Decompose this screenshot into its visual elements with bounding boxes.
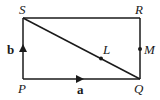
label-vector-b: b [7, 42, 14, 57]
label-s: S [19, 2, 26, 17]
vector-diagram: S R P Q L M b a [0, 0, 160, 100]
label-p: P [17, 81, 26, 96]
label-l: L [102, 42, 110, 57]
arrow-b-icon [19, 44, 27, 52]
diagonal-sq [23, 18, 140, 79]
label-q: Q [134, 81, 144, 96]
label-r: R [134, 2, 143, 17]
point-l [99, 57, 103, 61]
point-m [138, 47, 142, 51]
label-m: M [143, 42, 156, 57]
label-vector-a: a [77, 82, 84, 97]
